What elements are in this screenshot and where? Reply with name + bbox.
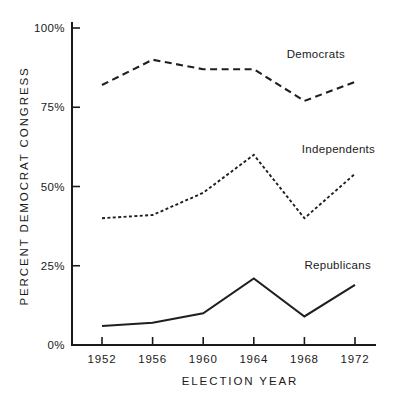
line-chart: 100%75%50%25%0% 195219561960196419681972… <box>0 0 393 407</box>
y-tick-label: 0% <box>48 339 65 351</box>
y-axis-ticks: 100%75%50%25%0% <box>34 22 80 351</box>
y-tick-label: 100% <box>34 22 65 34</box>
x-tick-label: 1956 <box>138 353 167 365</box>
series-line-independents <box>102 155 355 218</box>
x-tick-label: 1972 <box>341 353 370 365</box>
x-axis-title: ELECTION YEAR <box>182 375 299 387</box>
y-axis-title: PERCENT DEMOCRAT CONGRESS <box>18 66 30 305</box>
y-tick-label: 75% <box>41 101 65 113</box>
chart-container: 100%75%50%25%0% 195219561960196419681972… <box>0 0 393 407</box>
series-line-republicans <box>102 278 355 326</box>
series-label-republicans: Republicans <box>304 259 371 271</box>
x-tick-label: 1964 <box>239 353 268 365</box>
x-tick-label: 1960 <box>189 353 218 365</box>
series-labels: DemocratsIndependentsRepublicans <box>287 48 375 271</box>
x-tick-label: 1952 <box>88 353 117 365</box>
series-lines <box>102 60 355 326</box>
axes <box>72 23 375 345</box>
series-label-democrats: Democrats <box>287 48 345 60</box>
y-tick-label: 25% <box>41 260 65 272</box>
y-tick-label: 50% <box>41 181 65 193</box>
series-label-independents: Independents <box>302 143 375 155</box>
x-tick-label: 1968 <box>290 353 319 365</box>
series-line-democrats <box>102 60 355 101</box>
x-axis-ticks: 195219561960196419681972 <box>88 337 370 365</box>
